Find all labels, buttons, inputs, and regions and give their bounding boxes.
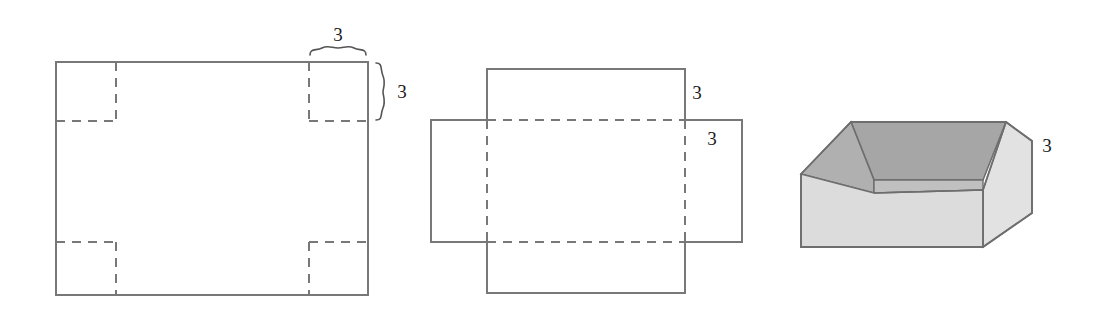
label-net-flap-right: 3 <box>707 128 717 149</box>
box-interior-back-wall <box>851 122 1006 180</box>
label-box-height: 3 <box>1042 135 1052 156</box>
geometry-figure-canvas: 3 3 3 3 <box>0 0 1101 316</box>
label-sheet-corner-height: 3 <box>397 81 407 102</box>
label-net-flap-top: 3 <box>692 82 702 103</box>
label-sheet-corner-width: 3 <box>333 24 343 45</box>
